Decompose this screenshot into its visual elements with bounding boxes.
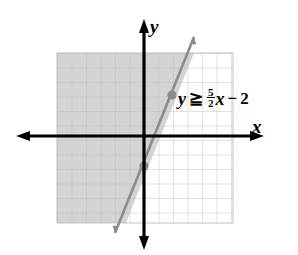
equation-relation-sign: ≧: [189, 90, 203, 107]
y-axis-arrow-up: [139, 19, 149, 33]
graph-figure: y x y ≧ 5 2 x − 2: [0, 0, 298, 255]
equation-variable-x: x: [216, 90, 225, 108]
y-axis-label: y: [150, 16, 158, 38]
x-axis-arrow-left: [16, 131, 30, 141]
fraction-denominator: 2: [207, 97, 215, 108]
equation-fraction: 5 2: [207, 87, 215, 109]
y-axis-arrow-down: [139, 236, 149, 250]
fraction-numerator: 5: [207, 87, 215, 97]
x-axis-label: x: [252, 116, 262, 138]
equation-constant: 2: [240, 90, 249, 107]
point-second: [167, 90, 176, 99]
equation-operator: −: [228, 90, 238, 107]
inequality-equation: y ≧ 5 2 x − 2: [178, 88, 249, 110]
equation-lhs-variable: y: [178, 90, 186, 108]
